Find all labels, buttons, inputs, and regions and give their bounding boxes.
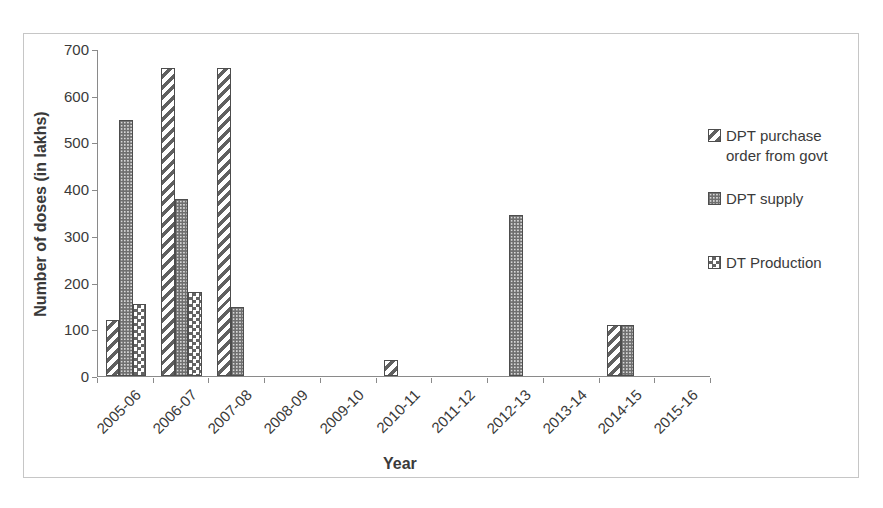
y-tick-label-500: 500 [37,134,89,152]
y-tick-mark-400 [92,190,97,191]
y-tick-mark-700 [92,50,97,51]
x-tick-mark-11 [710,378,711,383]
x-tick-mark-6 [431,378,432,383]
legend-swatch-checkerboard-icon [708,256,721,269]
plot-area [97,50,710,377]
legend-item-dpt-purchase-order-from-govt: DPT purchase order from govt [708,126,846,166]
bar-dpt-supply-2012-13 [509,215,523,376]
bar-dt-production-2006-07 [188,292,202,376]
x-tick-mark-8 [543,378,544,383]
y-tick-mark-200 [92,284,97,285]
legend-swatch-diagonal-stripe-icon [708,129,721,142]
y-tick-mark-600 [92,97,97,98]
bar-dt-production-2005-06 [133,304,147,376]
bar-dpt-supply-2006-07 [175,199,189,377]
bar-dpt-supply-2007-08 [231,307,245,376]
x-tick-mark-0 [97,378,98,383]
bar-dpt-purchase-order-from-govt-2014-15 [607,325,621,376]
y-tick-label-700: 700 [37,41,89,59]
y-tick-label-600: 600 [37,88,89,106]
bar-dpt-purchase-order-from-govt-2010-11 [384,360,398,376]
x-tick-mark-4 [320,378,321,383]
bar-dpt-purchase-order-from-govt-2006-07 [161,68,175,376]
y-tick-label-0: 0 [37,368,89,386]
x-tick-mark-3 [264,378,265,383]
legend-item-dpt-supply: DPT supply [708,189,846,209]
x-tick-mark-1 [153,378,154,383]
y-tick-label-200: 200 [37,275,89,293]
y-tick-label-400: 400 [37,181,89,199]
bar-dpt-supply-2005-06 [119,120,133,376]
x-axis-title: Year [383,455,417,473]
y-tick-mark-500 [92,143,97,144]
y-tick-mark-100 [92,330,97,331]
bar-dpt-supply-2014-15 [621,325,635,376]
x-tick-mark-9 [599,378,600,383]
y-tick-label-100: 100 [37,321,89,339]
legend-item-dt-production: DT Production [708,253,846,273]
x-tick-mark-10 [654,378,655,383]
x-tick-mark-2 [208,378,209,383]
x-tick-mark-5 [376,378,377,383]
y-tick-label-300: 300 [37,228,89,246]
legend-label-dt-production: DT Production [726,253,846,273]
y-tick-mark-300 [92,237,97,238]
x-tick-mark-7 [487,378,488,383]
bar-dpt-purchase-order-from-govt-2007-08 [217,68,231,376]
legend-label-dpt-supply: DPT supply [726,189,846,209]
bar-dpt-purchase-order-from-govt-2005-06 [106,320,120,376]
legend-swatch-dense-dots-icon [708,192,721,205]
legend-label-dpt-purchase-order-from-govt: DPT purchase order from govt [726,126,846,166]
figure-bar-chart: Number of doses (in lakhs) 0100200300400… [0,0,883,508]
